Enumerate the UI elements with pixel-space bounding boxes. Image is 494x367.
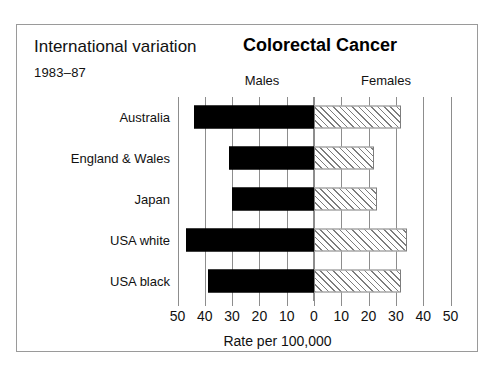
chart-row: Japan [17, 179, 478, 220]
axis-tick [369, 301, 370, 306]
column-header-males: Males [245, 73, 280, 88]
bar-males [229, 147, 314, 170]
bar-females [314, 106, 401, 129]
chart-row: Australia [17, 97, 478, 138]
chart-row: England & Wales [17, 138, 478, 179]
column-header-females: Females [361, 73, 411, 88]
bar-males [194, 106, 314, 129]
axis-tick [259, 301, 260, 306]
bar-males [186, 228, 314, 251]
bar-males [232, 187, 314, 210]
bar-females [314, 269, 401, 292]
bar-females [314, 187, 377, 210]
chart-period-label: 1983–87 [34, 65, 86, 80]
axis-tick [451, 301, 452, 306]
category-label: Australia [119, 110, 170, 125]
x-axis-title: Rate per 100,000 [17, 333, 478, 349]
axis-tick [205, 301, 206, 306]
chart-row: USA black [17, 260, 478, 301]
axis-tick-label: 50 [170, 308, 186, 324]
bar-males [208, 269, 314, 292]
axis-tick-label: 40 [197, 308, 213, 324]
axis-tick [178, 301, 179, 306]
axis-tick-label: 10 [334, 308, 350, 324]
axis-tick-label: 0 [310, 308, 318, 324]
category-label: USA black [110, 273, 170, 288]
axis-tick-label: 40 [415, 308, 431, 324]
axis-tick [314, 301, 315, 306]
category-label: England & Wales [71, 151, 170, 166]
bar-females [314, 147, 374, 170]
axis-tick-label: 30 [224, 308, 240, 324]
bar-females [314, 228, 407, 251]
axis-tick [396, 301, 397, 306]
x-axis: 504030201001020304050 [17, 301, 478, 331]
chart-figure: International variation 1983–87 Colorect… [16, 24, 478, 352]
axis-tick [287, 301, 288, 306]
axis-tick-label: 30 [388, 308, 404, 324]
chart-row: USA white [17, 219, 478, 260]
category-label: Japan [135, 191, 170, 206]
axis-tick-label: 50 [443, 308, 459, 324]
axis-tick [423, 301, 424, 306]
axis-tick-label: 10 [279, 308, 295, 324]
chart-subtitle-left: International variation [34, 37, 197, 57]
plot-area: AustraliaEngland & WalesJapanUSA whiteUS… [17, 97, 478, 301]
category-label: USA white [110, 232, 170, 247]
axis-tick [232, 301, 233, 306]
chart-title: Colorectal Cancer [243, 35, 397, 56]
x-axis-title-text: Rate per 100,000 [163, 333, 331, 349]
axis-tick-label: 20 [252, 308, 268, 324]
axis-tick-label: 20 [361, 308, 377, 324]
axis-tick [341, 301, 342, 306]
